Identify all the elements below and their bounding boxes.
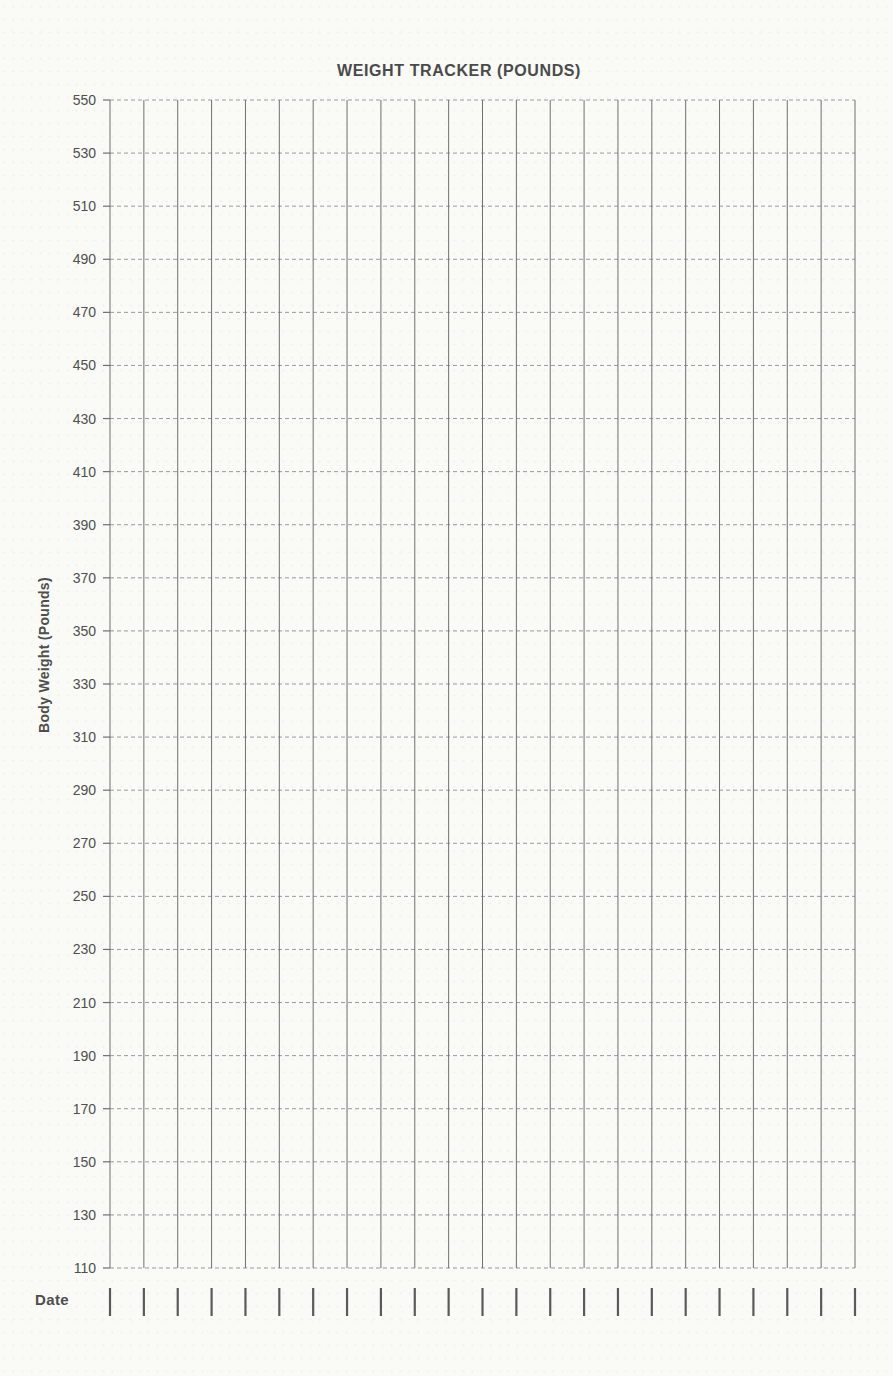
- y-tick-label: 210: [0, 995, 96, 1011]
- y-tick-label: 250: [0, 888, 96, 904]
- weight-tracker-sheet: WEIGHT TRACKER (POUNDS) Body Weight (Pou…: [0, 0, 893, 1376]
- y-tick-label: 310: [0, 729, 96, 745]
- y-tick-label: 330: [0, 676, 96, 692]
- y-tick-label: 430: [0, 411, 96, 427]
- y-tick-label: 350: [0, 623, 96, 639]
- y-tick-label: 390: [0, 517, 96, 533]
- y-tick-label: 230: [0, 941, 96, 957]
- y-tick-label: 270: [0, 835, 96, 851]
- y-tick-label: 410: [0, 464, 96, 480]
- y-tick-label: 190: [0, 1048, 96, 1064]
- y-tick-label: 170: [0, 1101, 96, 1117]
- y-tick-label: 450: [0, 357, 96, 373]
- y-tick-label: 370: [0, 570, 96, 586]
- y-tick-label: 550: [0, 92, 96, 108]
- y-tick-label: 290: [0, 782, 96, 798]
- y-tick-label: 490: [0, 251, 96, 267]
- y-tick-label: 510: [0, 198, 96, 214]
- y-tick-label: 150: [0, 1154, 96, 1170]
- chart-grid: [0, 0, 893, 1376]
- y-tick-label: 470: [0, 304, 96, 320]
- y-tick-label: 530: [0, 145, 96, 161]
- x-axis-title: Date: [35, 1291, 69, 1308]
- y-tick-label: 130: [0, 1207, 96, 1223]
- y-tick-label: 110: [0, 1260, 96, 1276]
